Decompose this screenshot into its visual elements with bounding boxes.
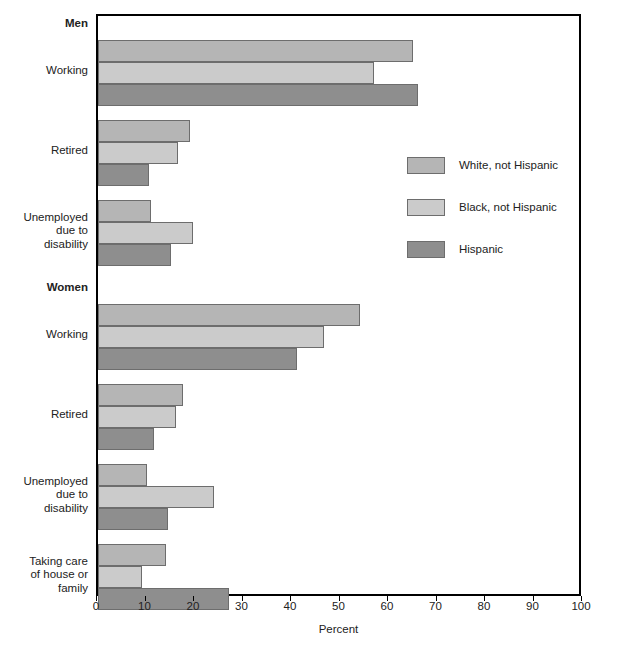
bar bbox=[98, 222, 193, 244]
x-axis-tick-label: 30 bbox=[235, 600, 248, 612]
x-axis-tick-label: 60 bbox=[381, 600, 394, 612]
x-axis-tick-label: 100 bbox=[571, 600, 590, 612]
y-axis-label-line: due to bbox=[23, 488, 88, 502]
x-axis-tick-label: 20 bbox=[187, 600, 200, 612]
y-axis-label: Women bbox=[47, 281, 88, 295]
y-axis-label: Unemployeddue todisability bbox=[23, 475, 88, 516]
y-axis-label: Working bbox=[46, 64, 88, 78]
bar bbox=[98, 40, 413, 62]
y-axis-label-line: disability bbox=[23, 238, 88, 252]
bar bbox=[98, 508, 168, 530]
y-axis-label: Unemployeddue todisability bbox=[23, 211, 88, 252]
legend-label-hispanic: Hispanic bbox=[459, 243, 503, 255]
x-axis-tick-label: 50 bbox=[332, 600, 345, 612]
y-axis-label-line: Retired bbox=[51, 408, 88, 422]
bar bbox=[98, 164, 149, 186]
y-axis-label-line: of house or bbox=[29, 568, 88, 582]
clipped-header-artifact bbox=[0, 0, 621, 8]
y-axis-label-line: due to bbox=[23, 224, 88, 238]
bar bbox=[98, 326, 324, 348]
bar bbox=[98, 464, 147, 486]
legend-swatch-hispanic bbox=[407, 241, 445, 258]
y-axis-label: Retired bbox=[51, 408, 88, 422]
legend-item-black-not-hispanic: Black, not Hispanic bbox=[407, 197, 587, 217]
bar bbox=[98, 200, 151, 222]
x-axis-tick-label: 80 bbox=[478, 600, 491, 612]
y-axis-label: Men bbox=[65, 17, 88, 31]
x-axis-tick-label: 0 bbox=[93, 600, 99, 612]
chart-legend: White, not Hispanic Black, not Hispanic … bbox=[407, 155, 587, 281]
x-axis-tick-label: 70 bbox=[429, 600, 442, 612]
x-axis-title: Percent bbox=[96, 623, 581, 635]
y-axis-label-line: family bbox=[29, 582, 88, 596]
legend-label-white-not-hispanic: White, not Hispanic bbox=[459, 159, 558, 171]
bar bbox=[98, 84, 418, 106]
y-axis-label-line: Working bbox=[46, 64, 88, 78]
y-axis-label-line: Women bbox=[47, 281, 88, 295]
bar bbox=[98, 142, 178, 164]
y-axis-label: Retired bbox=[51, 144, 88, 158]
x-axis-tick-label: 40 bbox=[284, 600, 297, 612]
bar bbox=[98, 428, 154, 450]
legend-swatch-black-not-hispanic bbox=[407, 199, 445, 216]
bar bbox=[98, 544, 166, 566]
y-axis-label-line: Men bbox=[65, 17, 88, 31]
bar bbox=[98, 304, 360, 326]
y-axis-label-line: Unemployed bbox=[23, 475, 88, 489]
x-axis-tick-label: 10 bbox=[138, 600, 151, 612]
bar bbox=[98, 120, 190, 142]
bar bbox=[98, 566, 142, 588]
y-axis-label: Working bbox=[46, 328, 88, 342]
legend-swatch-white-not-hispanic bbox=[407, 157, 445, 174]
y-axis-label: Taking careof house orfamily bbox=[29, 555, 88, 596]
y-axis-label-line: Taking care bbox=[29, 555, 88, 569]
legend-item-white-not-hispanic: White, not Hispanic bbox=[407, 155, 587, 175]
y-axis-label-line: Retired bbox=[51, 144, 88, 158]
bar bbox=[98, 486, 214, 508]
bar bbox=[98, 62, 374, 84]
bar bbox=[98, 406, 176, 428]
chart-plot-frame bbox=[96, 14, 581, 596]
y-axis-label-line: disability bbox=[23, 502, 88, 516]
bar bbox=[98, 348, 297, 370]
x-axis-tick-labels: 0102030405060708090100 bbox=[96, 600, 581, 616]
bar bbox=[98, 244, 171, 266]
bars-container bbox=[98, 16, 579, 594]
x-axis-tick-label: 90 bbox=[526, 600, 539, 612]
y-axis-label-line: Unemployed bbox=[23, 211, 88, 225]
legend-label-black-not-hispanic: Black, not Hispanic bbox=[459, 201, 557, 213]
bar bbox=[98, 384, 183, 406]
legend-item-hispanic: Hispanic bbox=[407, 239, 587, 259]
y-axis-label-line: Working bbox=[46, 328, 88, 342]
